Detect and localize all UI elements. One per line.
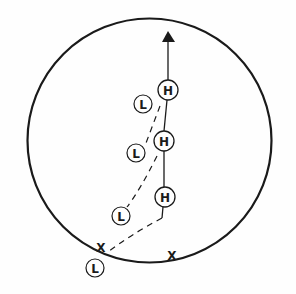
arrowhead-icon — [162, 31, 175, 42]
l-marker-label: L — [91, 262, 99, 276]
h-marker-label: H — [163, 84, 173, 98]
l-marker-2: L — [127, 144, 145, 162]
h-marker-3: H — [155, 187, 175, 207]
l-marker-label: L — [139, 98, 147, 112]
l-marker-3: L — [112, 207, 130, 225]
play-diagram: H H H L L L L X X — [0, 0, 296, 294]
h-marker-1: H — [158, 80, 178, 100]
x-marker-2: X — [167, 249, 177, 263]
l-marker-1: L — [134, 95, 152, 113]
h-marker-label: H — [160, 191, 170, 205]
diagram-canvas: H H H L L L L X X — [0, 0, 296, 294]
h-marker-label: H — [159, 135, 169, 149]
h-marker-2: H — [154, 131, 174, 151]
x-marker-1: X — [96, 241, 106, 255]
field-circle — [28, 19, 272, 263]
l-marker-4: L — [86, 259, 104, 277]
l-marker-label: L — [117, 210, 125, 224]
l-marker-label: L — [132, 147, 140, 161]
l-path — [108, 106, 162, 252]
